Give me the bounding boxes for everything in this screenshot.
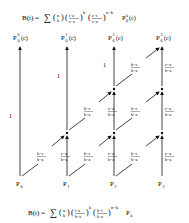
svg-text:(c): (c) <box>116 35 123 42</box>
svg-text:1: 1 <box>9 113 12 119</box>
top-point-3: P 3 0 (c) <box>156 32 171 43</box>
control-point-2: P2 <box>110 180 117 189</box>
svg-text:b−a: b−a <box>84 157 90 162</box>
svg-text:c−a: c−a <box>61 151 67 156</box>
svg-text:b−c: b−c <box>37 151 43 156</box>
svg-text:P: P <box>110 180 114 187</box>
svg-text:(c): (c) <box>21 35 28 42</box>
control-point-3: P3 <box>158 180 165 189</box>
svg-text:b−a: b−a <box>165 157 171 162</box>
bottom-formula: B(t) = ∑ ( n k ) ( t−a b−a ) k ( b−t b−a… <box>0 203 189 223</box>
svg-text:t−a: t−a <box>75 208 80 213</box>
svg-text:0: 0 <box>66 38 68 43</box>
svg-text:P: P <box>63 180 67 187</box>
svg-text:b−t: b−t <box>97 208 103 213</box>
svg-text:k: k <box>63 213 66 218</box>
svg-text:1: 1 <box>68 184 70 189</box>
svg-text:c−a: c−a <box>108 151 114 156</box>
svg-text:(: ( <box>59 208 62 217</box>
svg-text:1: 1 <box>103 62 106 68</box>
svg-text:3: 3 <box>161 32 163 37</box>
svg-text:b−c: b−c <box>131 106 137 111</box>
svg-text:): ) <box>67 208 70 217</box>
svg-text:P: P <box>13 34 17 41</box>
svg-text:P: P <box>158 180 162 187</box>
top-point-2: P 2 0 (c) <box>108 32 123 43</box>
svg-text:0: 0 <box>113 38 115 43</box>
svg-text:b−a: b−a <box>75 214 81 219</box>
svg-text:(: ( <box>71 208 74 217</box>
svg-text:b−a: b−a <box>108 112 114 117</box>
svg-text:1: 1 <box>57 73 60 79</box>
svg-text:b−a: b−a <box>61 157 67 162</box>
svg-text:c−a: c−a <box>108 106 114 111</box>
svg-text:B(t) =: B(t) = <box>28 209 45 217</box>
svg-text:P: P <box>61 34 65 41</box>
de-casteljau-diagram: P 0 0 (c) P 1 0 (c) P 2 0 (c) P 3 0 (c) <box>0 0 189 223</box>
svg-text:P: P <box>108 34 112 41</box>
svg-text:2: 2 <box>113 32 115 37</box>
svg-text:b−a: b−a <box>108 157 114 162</box>
control-point-0: P0 <box>16 180 23 189</box>
control-point-1: P1 <box>63 180 70 189</box>
svg-text:b−c: b−c <box>84 151 90 156</box>
svg-text:0: 0 <box>21 184 23 189</box>
svg-text:c−a: c−a <box>165 106 171 111</box>
svg-text:3: 3 <box>163 184 165 189</box>
svg-text:(c): (c) <box>164 35 171 42</box>
top-point-1: P 1 0 (c) <box>61 32 76 43</box>
svg-text:0: 0 <box>18 38 20 43</box>
svg-text:P: P <box>126 209 130 216</box>
svg-text:k: k <box>89 205 92 210</box>
svg-text:0: 0 <box>161 38 163 43</box>
svg-text:n−k: n−k <box>111 205 119 210</box>
svg-text:b−c: b−c <box>131 151 137 156</box>
top-point-0: P 0 0 (c) <box>13 32 28 43</box>
svg-text:b−a: b−a <box>165 112 171 117</box>
svg-text:1: 1 <box>66 32 68 37</box>
svg-text:b−a: b−a <box>131 68 137 73</box>
svg-text:b−a: b−a <box>131 112 137 117</box>
svg-text:k: k <box>131 213 133 218</box>
svg-text:c−a: c−a <box>165 151 171 156</box>
svg-text:b−a: b−a <box>84 112 90 117</box>
svg-text:2: 2 <box>115 184 117 189</box>
svg-text:b−c: b−c <box>84 106 90 111</box>
svg-text:∑: ∑ <box>50 207 57 218</box>
svg-text:(c): (c) <box>69 35 76 42</box>
svg-text:P: P <box>156 34 160 41</box>
svg-text:c−a: c−a <box>165 62 171 67</box>
svg-text:(: ( <box>93 208 96 217</box>
svg-text:b−a: b−a <box>165 68 171 73</box>
svg-text:b−a: b−a <box>131 157 137 162</box>
svg-text:b−c: b−c <box>131 62 137 67</box>
svg-text:0: 0 <box>18 32 20 37</box>
svg-text:P: P <box>16 180 20 187</box>
svg-text:b−a: b−a <box>37 157 43 162</box>
svg-text:b−a: b−a <box>97 214 103 219</box>
